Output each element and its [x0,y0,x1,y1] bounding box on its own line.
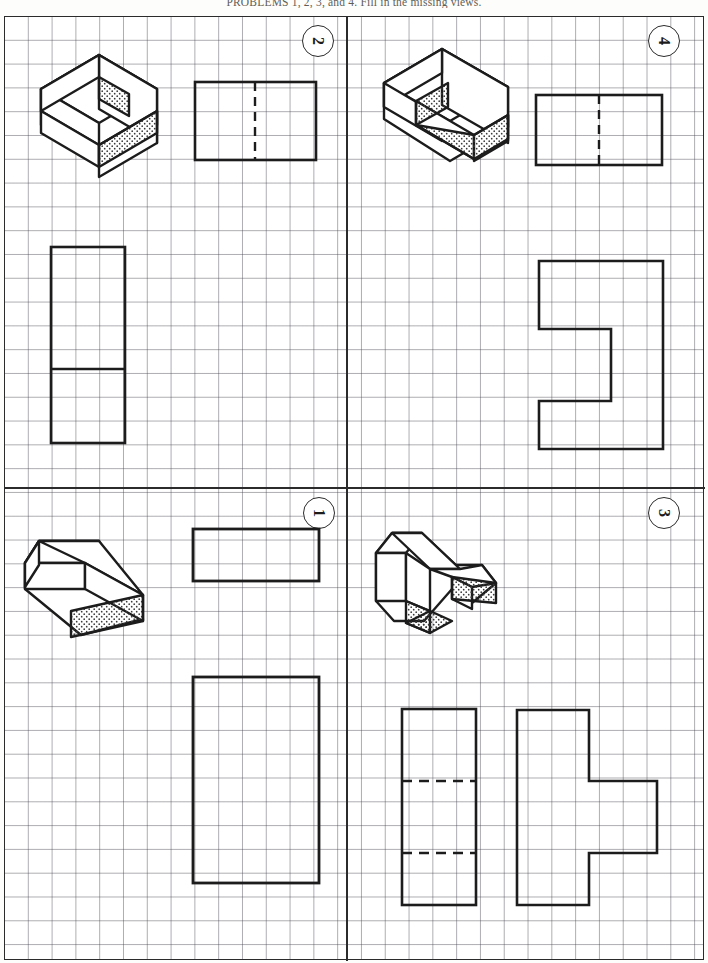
worksheet-sheet: 2 [4,16,704,960]
problem-number-2: 2 [302,25,334,57]
problem-1-top-view [191,527,321,583]
problem-4-quadrant: 4 [348,17,689,487]
problem-4-top-view [534,93,664,167]
problem-2-front-view [49,245,127,445]
problem-2-pictorial [11,45,176,185]
problem-number-1: 1 [303,497,335,529]
worksheet-caption: PROBLEMS 1, 2, 3, and 4. Fill in the mis… [0,0,708,8]
problem-2-quadrant: 2 [5,17,346,487]
problem-3-pictorial [360,511,522,651]
problem-4-side-view [535,257,667,453]
problem-1-quadrant: 1 [5,489,346,959]
problem-1-front-view [191,675,321,885]
problem-3-front-view [400,707,478,907]
problem-number-4: 4 [648,25,680,57]
problem-1-pictorial [13,513,173,645]
problem-number-3: 3 [648,497,680,529]
problem-3-quadrant: 3 [348,489,689,959]
problem-4-pictorial [358,45,526,187]
problem-2-top-view [193,80,318,162]
problem-3-side-view [514,707,660,907]
